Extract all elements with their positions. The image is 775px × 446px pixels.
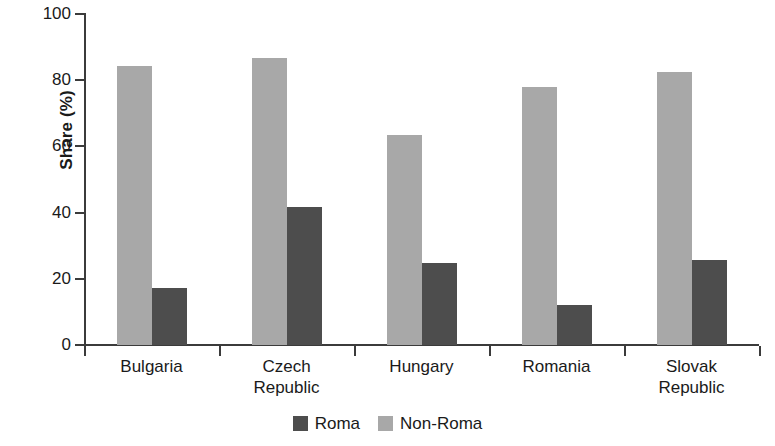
y-axis-tick-label: 20 <box>27 270 71 287</box>
legend-item-roma[interactable]: Roma <box>293 415 360 432</box>
y-axis-tick <box>75 13 84 15</box>
x-axis-tick <box>759 346 761 356</box>
bar-slovak-republic-roma <box>692 260 727 345</box>
bar-romania-roma <box>557 305 592 345</box>
x-axis-tick <box>219 346 221 356</box>
bar-bulgaria-non-roma <box>117 66 152 345</box>
y-axis-tick-label: 80 <box>27 71 71 88</box>
y-axis-tick <box>75 79 84 81</box>
x-axis-tick <box>489 346 491 356</box>
y-axis-tick-label: 100 <box>27 5 71 22</box>
x-axis-label-line: Bulgaria <box>84 356 219 377</box>
y-axis-tick-label: 60 <box>27 137 71 154</box>
bar-hungary-roma <box>422 263 457 345</box>
bar-czech-republic-non-roma <box>252 58 287 345</box>
x-axis-label-romania: Romania <box>489 356 624 377</box>
x-axis-label-czech-republic: CzechRepublic <box>219 356 354 398</box>
y-axis-tick-label: 0 <box>27 336 71 353</box>
legend-swatch-icon <box>378 416 393 431</box>
x-axis-tick <box>624 346 626 356</box>
x-axis-label-line: Slovak <box>624 356 759 377</box>
y-axis-tick <box>75 145 84 147</box>
x-axis-label-line: Republic <box>219 377 354 398</box>
y-axis-tick <box>75 212 84 214</box>
x-axis-tick <box>354 346 356 356</box>
y-axis-tick-label: 40 <box>27 204 71 221</box>
bar-bulgaria-roma <box>152 288 187 345</box>
x-axis-tick <box>84 346 86 356</box>
legend-label: Roma <box>315 415 360 432</box>
x-axis-label-bulgaria: Bulgaria <box>84 356 219 377</box>
x-axis-label-line: Czech <box>219 356 354 377</box>
chart-legend: RomaNon-Roma <box>0 415 775 432</box>
x-axis-label-slovak-republic: SlovakRepublic <box>624 356 759 398</box>
x-axis-label-line: Republic <box>624 377 759 398</box>
bar-chart-figure: Share (%) 020406080100 BulgariaCzechRepu… <box>0 0 775 446</box>
bar-slovak-republic-non-roma <box>657 72 692 345</box>
x-axis-label-line: Romania <box>489 356 624 377</box>
legend-label: Non-Roma <box>400 415 482 432</box>
bar-hungary-non-roma <box>387 135 422 345</box>
y-axis-tick <box>75 278 84 280</box>
legend-swatch-icon <box>293 416 308 431</box>
x-axis-label-hungary: Hungary <box>354 356 489 377</box>
bar-czech-republic-roma <box>287 207 322 345</box>
legend-item-non-roma[interactable]: Non-Roma <box>378 415 482 432</box>
plot-area <box>84 14 759 345</box>
bar-romania-non-roma <box>522 87 557 345</box>
x-axis-label-line: Hungary <box>354 356 489 377</box>
y-axis-tick <box>75 344 84 346</box>
